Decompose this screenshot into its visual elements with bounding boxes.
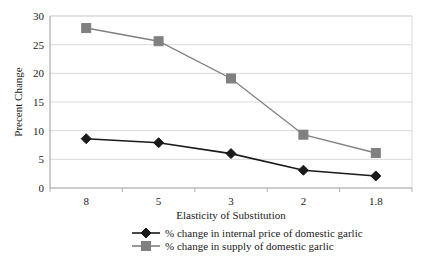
plot-area bbox=[50, 16, 412, 192]
y-tick-label: 0 bbox=[39, 182, 45, 194]
square-marker bbox=[371, 149, 380, 158]
square-marker bbox=[82, 24, 91, 33]
y-tick-label: 15 bbox=[33, 96, 45, 108]
y-tick-label: 10 bbox=[33, 125, 45, 137]
y-axis-title: Precent Change bbox=[12, 67, 24, 136]
line-chart: 051015202530 85321.8 Precent Change Elas… bbox=[0, 0, 424, 260]
chart-legend: % change in internal price of domestic g… bbox=[132, 227, 363, 252]
square-marker bbox=[299, 130, 308, 139]
x-tick-label: 2 bbox=[301, 195, 307, 207]
chart-container: 051015202530 85321.8 Precent Change Elas… bbox=[0, 0, 424, 260]
square-marker bbox=[227, 74, 236, 83]
y-tick-label: 30 bbox=[33, 10, 45, 22]
x-tick-label: 5 bbox=[156, 195, 162, 207]
x-tick-label: 1.8 bbox=[369, 195, 383, 207]
y-tick-label: 20 bbox=[33, 67, 45, 79]
square-marker bbox=[142, 242, 151, 251]
y-tick-label: 25 bbox=[33, 39, 45, 51]
y-tick-label: 5 bbox=[39, 153, 45, 165]
legend-item[interactable]: % change in internal price of domestic g… bbox=[132, 227, 363, 239]
x-tick-label: 3 bbox=[228, 195, 234, 207]
legend-label: % change in internal price of domestic g… bbox=[165, 227, 363, 239]
square-marker bbox=[154, 37, 163, 46]
x-tick-label: 8 bbox=[83, 195, 89, 207]
x-axis-title: Elasticity of Substitution bbox=[176, 209, 286, 221]
legend-label: % change in supply of domestic garlic bbox=[165, 240, 334, 252]
